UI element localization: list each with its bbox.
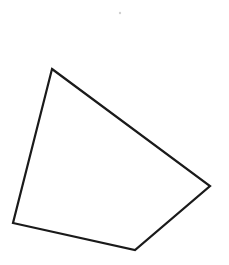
diagram-canvas [0,0,229,265]
faint-mark [119,12,121,14]
quadrilateral-shape [13,69,210,250]
quadrilateral-figure [0,0,229,265]
